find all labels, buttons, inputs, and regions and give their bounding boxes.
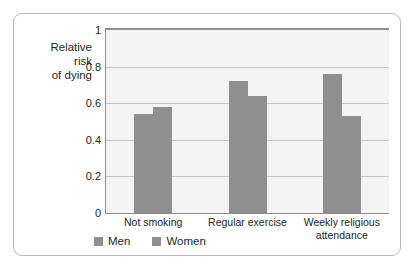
legend-item-men: Men xyxy=(94,235,130,247)
y-axis-title-line-2: risk xyxy=(20,54,92,68)
y-axis-tick-label: 0.8 xyxy=(86,61,101,73)
bar-men-0[interactable] xyxy=(134,114,153,213)
legend-swatch-men-icon xyxy=(94,237,103,246)
x-axis-label-line: Weekly religious xyxy=(282,216,402,229)
legend-label-women: Women xyxy=(166,235,205,247)
x-axis-label-line: attendance xyxy=(282,229,402,242)
x-axis-label-2: Weekly religiousattendance xyxy=(282,216,402,241)
y-axis-title-line-1: Relative xyxy=(20,40,92,54)
chart-card: Relative risk of dying 00.20.40.60.81 No… xyxy=(13,13,401,256)
y-axis-tick-label: 0.6 xyxy=(86,97,101,109)
y-axis-title: Relative risk of dying xyxy=(20,40,92,82)
bar-men-2[interactable] xyxy=(323,74,342,213)
y-axis-tick-label: 1 xyxy=(95,24,101,36)
bar-group xyxy=(134,30,172,213)
y-axis-tick-label: 0.2 xyxy=(86,170,101,182)
legend-swatch-women-icon xyxy=(152,237,161,246)
legend-item-women: Women xyxy=(152,235,205,247)
bar-women-0[interactable] xyxy=(153,107,172,213)
bar-group xyxy=(229,30,267,213)
bars-layer xyxy=(106,30,389,213)
bar-women-2[interactable] xyxy=(342,116,361,213)
bar-men-1[interactable] xyxy=(229,81,248,213)
y-axis-tick-label: 0.4 xyxy=(86,134,101,146)
legend-label-men: Men xyxy=(108,235,130,247)
legend: Men Women xyxy=(94,235,206,247)
y-axis-title-line-3: of dying xyxy=(20,68,92,82)
plot-area: 00.20.40.60.81 Not smokingRegular exerci… xyxy=(105,28,389,214)
bar-women-1[interactable] xyxy=(248,96,267,213)
bar-group xyxy=(323,30,361,213)
